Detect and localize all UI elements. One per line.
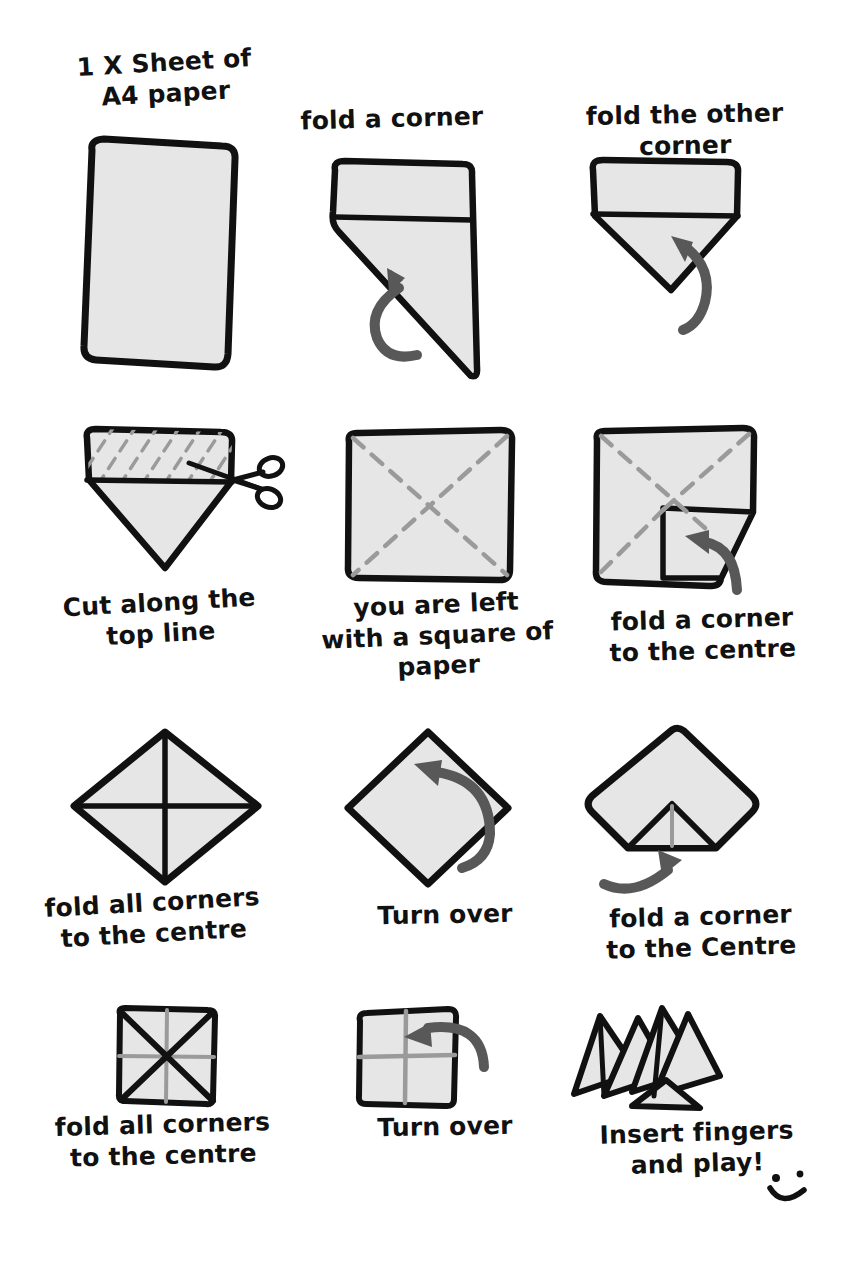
figure-small-square-with-x [100, 1000, 260, 1115]
step-5-caption: you are left with a square of paper [303, 584, 572, 687]
fold-lines [76, 734, 256, 880]
figure-diamond-corner-folded-up [570, 722, 785, 902]
instruction-sheet: 1 X Sheet of A4 paper fold a corner fold… [0, 0, 842, 1283]
figure-folded-one-corner [295, 150, 525, 400]
figure-a4-sheet [70, 132, 250, 382]
curved-arrow-icon [604, 850, 682, 889]
step-10-caption: fold all corners to the centre [17, 1106, 309, 1175]
figure-finished-fortune-teller [570, 1000, 800, 1115]
figure-square-with-diagonals [335, 420, 525, 590]
step-7-caption: fold all corners to the centre [17, 881, 290, 957]
figure-diamond-with-cross [62, 722, 272, 892]
step-8-caption: Turn over [330, 898, 561, 933]
step-4-caption: Cut along the top line [24, 581, 297, 657]
step-6-caption: fold a corner to the centre [569, 601, 836, 669]
step-1-caption: 1 X Sheet of A4 paper [38, 41, 291, 116]
figure-small-square-turn-over [340, 995, 530, 1120]
figure-folded-two-corners [565, 150, 775, 380]
step-11-caption: Turn over [330, 1110, 561, 1145]
step-2-caption: fold a corner [272, 101, 513, 138]
smiley-icon [762, 1168, 822, 1217]
figure-square-one-corner-folded [585, 420, 795, 600]
step-9-caption: fold a corner to the Centre [561, 898, 841, 967]
figure-diamond-turn-over [330, 722, 530, 897]
figure-cut-top-band [65, 420, 295, 590]
